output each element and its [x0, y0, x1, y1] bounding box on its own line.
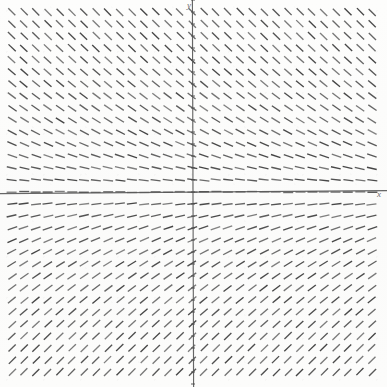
x-axis-label: x: [377, 189, 381, 199]
y-axis-label: y: [187, 0, 191, 10]
slope-field-figure: x y: [0, 0, 387, 387]
axes-group: [0, 0, 387, 387]
